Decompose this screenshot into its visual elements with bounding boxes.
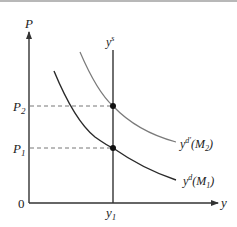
demand-m1-label: yd(M1) bbox=[182, 173, 214, 190]
p2-label: P2 bbox=[12, 99, 26, 116]
supply-label: ys bbox=[105, 34, 114, 49]
equilibrium-point-1 bbox=[110, 145, 116, 151]
demand-curve-m2 bbox=[80, 52, 176, 142]
demand-m2-label: yd′(M2) bbox=[179, 136, 213, 153]
x-axis-label: y bbox=[219, 195, 227, 210]
y1-label: y1 bbox=[104, 205, 116, 222]
equilibrium-point-2 bbox=[110, 103, 116, 109]
p1-label: P1 bbox=[12, 141, 25, 158]
origin-label: 0 bbox=[18, 196, 25, 211]
aggregate-demand-supply-diagram: P y 0 P2 P1 y1 ys yd′(M2) yd(M1) bbox=[0, 0, 237, 227]
demand-curve-m1 bbox=[54, 71, 176, 180]
y-axis-label: P bbox=[24, 16, 33, 31]
